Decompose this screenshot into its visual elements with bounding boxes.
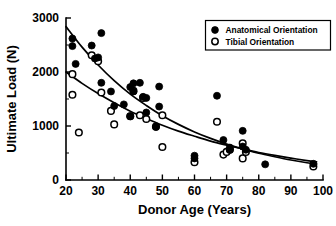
data-point [111, 121, 118, 128]
data-point [69, 71, 76, 78]
x-tick-label-70: 70 [220, 184, 234, 198]
legend-label-anatomical-orientation: Anatomical Orientation [226, 25, 318, 35]
data-point [239, 155, 246, 162]
data-point [143, 109, 150, 116]
data-point [159, 112, 166, 119]
data-point [95, 54, 102, 61]
data-point [143, 116, 150, 123]
data-point [310, 160, 317, 167]
data-point [137, 112, 144, 119]
data-point [214, 118, 221, 125]
data-point [156, 103, 163, 110]
data-point [69, 91, 76, 98]
data-point [76, 129, 83, 136]
data-point [191, 155, 198, 162]
y-tick-label-1000: 1000 [32, 119, 59, 133]
data-point [262, 161, 269, 168]
x-tick-label-30: 30 [91, 184, 105, 198]
data-point [226, 146, 233, 153]
chart-figure: 2030405060708090100 0100020003000 Donor … [0, 0, 336, 226]
x-axis-tick-labels: 2030405060708090100 [59, 184, 333, 198]
y-axis-title: Ultimate Load (N) [4, 45, 19, 153]
legend-marker-tibial-orientation [212, 38, 218, 44]
data-point [136, 79, 143, 86]
chart-legend: Anatomical Orientation Tibial Orientatio… [206, 21, 331, 51]
data-point [130, 80, 137, 87]
data-point [98, 89, 105, 96]
data-point [88, 42, 95, 49]
data-point [111, 103, 118, 110]
x-tick-label-100: 100 [313, 184, 333, 198]
legend-label-tibial-orientation: Tibial Orientation [226, 37, 295, 47]
data-point [98, 30, 105, 37]
data-point [156, 83, 163, 90]
x-tick-label-40: 40 [124, 184, 138, 198]
data-point [143, 94, 150, 101]
scatter-plot: 2030405060708090100 0100020003000 Donor … [0, 0, 336, 226]
y-tick-label-3000: 3000 [32, 11, 59, 25]
data-point [239, 127, 246, 134]
data-point [72, 60, 79, 67]
data-point [107, 88, 114, 95]
x-tick-label-60: 60 [188, 184, 202, 198]
x-axis-title: Donor Age (Years) [138, 202, 251, 217]
data-point [127, 113, 134, 120]
x-tick-label-20: 20 [59, 184, 73, 198]
data-point [159, 144, 166, 151]
x-tick-label-50: 50 [156, 184, 170, 198]
data-point [120, 101, 127, 108]
data-point [98, 79, 105, 86]
y-tick-label-2000: 2000 [32, 65, 59, 79]
data-point [69, 35, 76, 42]
data-point [69, 43, 76, 50]
data-point [220, 137, 227, 144]
data-point [213, 92, 220, 99]
legend-marker-anatomical-orientation [212, 27, 219, 34]
data-point [130, 88, 137, 95]
data-point [242, 146, 249, 153]
data-point [152, 124, 159, 131]
x-tick-label-80: 80 [252, 184, 266, 198]
y-tick-label-0: 0 [52, 173, 59, 187]
x-tick-label-90: 90 [284, 184, 298, 198]
